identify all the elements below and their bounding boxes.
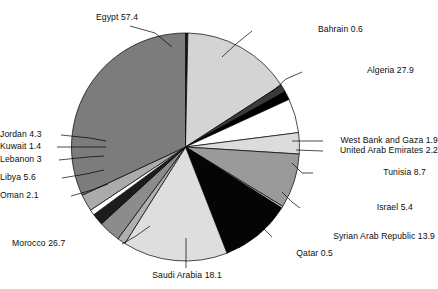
pie-label-united-arab-emirates: United Arab Emirates 2.2 (326, 145, 438, 155)
pie-label-saudi-arabia: Saudi Arabia 18.1 (131, 270, 243, 280)
pie-label-west-bank-and-gaza: West Bank and Gaza 1.9 (326, 135, 438, 145)
pie-label-syrian-arab-republic: Syrian Arab Republic 13.9 (275, 231, 435, 241)
pie-label-israel: Israel 5.4 (303, 202, 413, 212)
pie-label-jordan: Jordan 4.3 (0, 129, 58, 139)
pie-label-libya: Libya 5.6 (0, 172, 59, 182)
pie-label-algeria: Algeria 27.9 (304, 65, 414, 75)
pie-label-qatar: Qatar 0.5 (243, 248, 333, 258)
pie-label-lebanon: Lebanon 3 (0, 154, 56, 164)
pie-label-tunisia: Tunisia 8.7 (316, 167, 426, 177)
pie-label-egypt: Egypt 57.4 (62, 12, 172, 22)
leader-line-uae (296, 150, 323, 151)
pie-label-morocco: Morocco 26.7 (12, 238, 120, 248)
pie-label-oman: Oman 2.1 (0, 190, 68, 200)
pie-label-bahrain: Bahrain 0.6 (253, 24, 363, 34)
pie-label-kuwait: Kuwait 1.4 (0, 141, 54, 151)
